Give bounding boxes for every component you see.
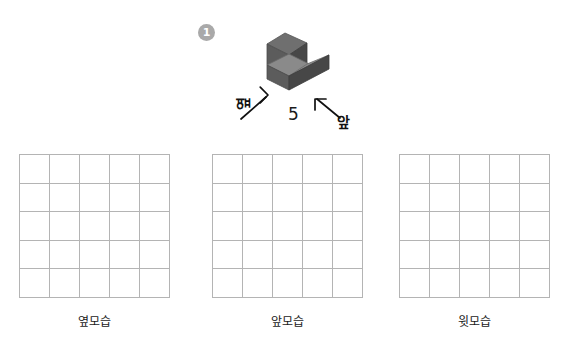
grid-cell[interactable] xyxy=(520,155,550,184)
grid-caption-top-view: 윗모습 xyxy=(399,312,549,329)
grid-cell[interactable] xyxy=(243,155,273,184)
grid-caption-side-view: 옆모습 xyxy=(19,312,169,329)
grid-cell[interactable] xyxy=(273,184,303,213)
grid-cell[interactable] xyxy=(243,269,273,298)
grid-cell[interactable] xyxy=(80,155,110,184)
grid-cell[interactable] xyxy=(303,184,333,213)
grid-cell[interactable] xyxy=(490,241,520,270)
grid-cell[interactable] xyxy=(50,269,80,298)
grid-cell[interactable] xyxy=(50,155,80,184)
grid-cell[interactable] xyxy=(110,212,140,241)
answer-grid-front-view[interactable] xyxy=(212,154,363,298)
grid-cell[interactable] xyxy=(400,184,430,213)
grid-cell[interactable] xyxy=(490,269,520,298)
cube-count-label: 5 xyxy=(288,104,299,124)
grid-cell[interactable] xyxy=(520,184,550,213)
grid-cell[interactable] xyxy=(303,241,333,270)
grid-cell[interactable] xyxy=(520,269,550,298)
grid-cell[interactable] xyxy=(303,212,333,241)
grid-cell[interactable] xyxy=(110,241,140,270)
grid-cell[interactable] xyxy=(20,269,50,298)
grid-cell[interactable] xyxy=(213,269,243,298)
grid-cell[interactable] xyxy=(303,155,333,184)
grid-cell[interactable] xyxy=(243,212,273,241)
grid-cell[interactable] xyxy=(430,241,460,270)
grid-cell[interactable] xyxy=(490,212,520,241)
grid-cell[interactable] xyxy=(430,184,460,213)
grid-cell[interactable] xyxy=(400,241,430,270)
grid-cell[interactable] xyxy=(140,184,170,213)
grid-cell[interactable] xyxy=(400,212,430,241)
grid-cell[interactable] xyxy=(490,184,520,213)
grid-cell[interactable] xyxy=(50,184,80,213)
grid-cell[interactable] xyxy=(333,184,363,213)
grid-cell[interactable] xyxy=(50,212,80,241)
grid-cell[interactable] xyxy=(213,184,243,213)
grid-cell[interactable] xyxy=(80,184,110,213)
grid-cell[interactable] xyxy=(20,184,50,213)
grid-block-top-view: 윗모습 xyxy=(399,154,550,329)
side-direction-label: 옆 xyxy=(232,97,252,110)
grid-cell[interactable] xyxy=(430,212,460,241)
grid-cell[interactable] xyxy=(50,241,80,270)
grid-cell[interactable] xyxy=(520,241,550,270)
grid-cell[interactable] xyxy=(140,155,170,184)
grid-cell[interactable] xyxy=(520,212,550,241)
grid-cell[interactable] xyxy=(303,269,333,298)
grid-cell[interactable] xyxy=(460,269,490,298)
answer-grid-top-view[interactable] xyxy=(399,154,550,298)
grid-cell[interactable] xyxy=(460,155,490,184)
isometric-solid-figure xyxy=(255,24,341,94)
grid-cell[interactable] xyxy=(243,241,273,270)
grid-cell[interactable] xyxy=(80,212,110,241)
grid-cell[interactable] xyxy=(273,212,303,241)
answer-grids-row: 옆모습 xyxy=(0,154,568,334)
grid-cell[interactable] xyxy=(273,269,303,298)
grid-cell[interactable] xyxy=(80,269,110,298)
grid-cell[interactable] xyxy=(243,184,273,213)
grid-cell[interactable] xyxy=(20,212,50,241)
front-direction-label: 앞 xyxy=(337,111,350,131)
answer-grid-side-view[interactable] xyxy=(19,154,170,298)
solid-svg xyxy=(255,24,341,94)
grid-cell[interactable] xyxy=(333,155,363,184)
grid-cell[interactable] xyxy=(213,241,243,270)
grid-cell[interactable] xyxy=(400,269,430,298)
problem-number-badge: 1 xyxy=(198,24,215,41)
grid-cell[interactable] xyxy=(20,241,50,270)
grid-cell[interactable] xyxy=(460,212,490,241)
grid-cell[interactable] xyxy=(80,241,110,270)
grid-cell[interactable] xyxy=(110,155,140,184)
grid-cell[interactable] xyxy=(20,155,50,184)
grid-cell[interactable] xyxy=(490,155,520,184)
grid-cell[interactable] xyxy=(333,212,363,241)
grid-cell[interactable] xyxy=(213,212,243,241)
grid-cell[interactable] xyxy=(333,269,363,298)
grid-cell[interactable] xyxy=(140,212,170,241)
grid-cell[interactable] xyxy=(213,155,243,184)
grid-cell[interactable] xyxy=(273,155,303,184)
grid-caption-front-view: 앞모습 xyxy=(212,312,362,329)
grid-cell[interactable] xyxy=(140,241,170,270)
grid-cell[interactable] xyxy=(430,269,460,298)
grid-cell[interactable] xyxy=(110,269,140,298)
grid-cell[interactable] xyxy=(400,155,430,184)
grid-cell[interactable] xyxy=(333,241,363,270)
grid-cell[interactable] xyxy=(430,155,460,184)
grid-cell[interactable] xyxy=(273,241,303,270)
grid-block-side-view: 옆모습 xyxy=(19,154,170,329)
grid-cell[interactable] xyxy=(460,184,490,213)
grid-block-front-view: 앞모습 xyxy=(212,154,363,329)
grid-cell[interactable] xyxy=(460,241,490,270)
grid-cell[interactable] xyxy=(140,269,170,298)
grid-cell[interactable] xyxy=(110,184,140,213)
